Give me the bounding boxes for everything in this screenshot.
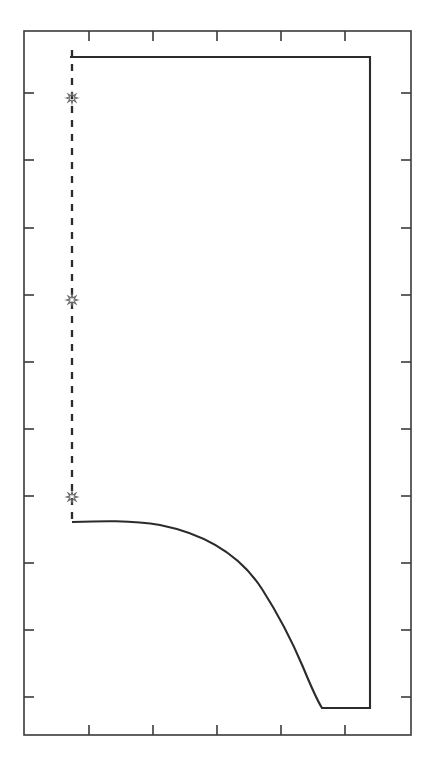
figure-background — [0, 0, 432, 764]
chart-figure — [0, 0, 432, 764]
plot-canvas — [0, 0, 432, 764]
